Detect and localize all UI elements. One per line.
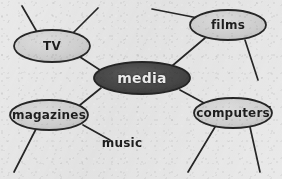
mindmap-sketch bbox=[0, 0, 282, 179]
branch-line-films-stub-left bbox=[152, 9, 198, 18]
branch-line-computers-stub-right bbox=[250, 127, 260, 172]
node-ellipse-magazines[interactable] bbox=[10, 100, 88, 130]
node-ellipse-tv[interactable] bbox=[14, 30, 90, 62]
branch-line-tv-stub-right bbox=[73, 8, 98, 33]
connector-media-magazines bbox=[80, 88, 101, 105]
connector-magazines-music bbox=[83, 125, 110, 140]
connector-media-tv bbox=[80, 57, 100, 70]
branch-line-computers-stub-left bbox=[188, 127, 215, 172]
branch-line-tv-stub-left bbox=[22, 6, 37, 32]
central-node-ellipse[interactable] bbox=[94, 62, 190, 94]
branch-line-films-stub-right bbox=[245, 40, 258, 80]
node-ellipse-computers[interactable] bbox=[194, 98, 272, 128]
connector-media-films bbox=[172, 38, 205, 66]
node-ellipse-films[interactable] bbox=[190, 10, 266, 40]
connector-media-computers bbox=[180, 90, 204, 103]
branch-line-magazines-stub-down bbox=[14, 129, 36, 172]
central-node-layer bbox=[94, 62, 190, 94]
mindmap-canvas: TVfilmsmagazinescomputersmediamusic bbox=[0, 0, 282, 179]
